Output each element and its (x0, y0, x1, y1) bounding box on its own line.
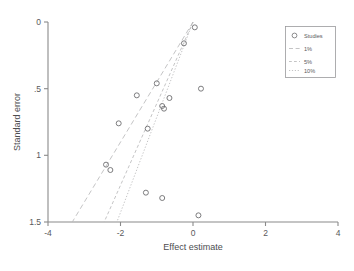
legend-label-10pct: 10% (304, 68, 315, 74)
legend-label-1pct: 1% (304, 46, 312, 52)
y-axis-title: Standard error (12, 93, 22, 151)
y-tick-label-0: 0 (36, 17, 41, 27)
x-tick-label-neg4: -4 (44, 228, 52, 238)
legend-label-5pct: 5% (304, 59, 312, 65)
y-tick-label-05: .5 (34, 84, 41, 94)
legend-label-studies: Studies (304, 33, 323, 39)
funnel-plot-svg: 0 .5 1 1.5 -4 -2 0 2 4 Effect estimate S… (0, 0, 354, 271)
x-tick-label-0: 0 (191, 228, 196, 238)
funnel-plot-figure: 0 .5 1 1.5 -4 -2 0 2 4 Effect estimate S… (0, 0, 354, 271)
x-tick-label-neg2: -2 (117, 228, 125, 238)
x-axis-title: Effect estimate (163, 242, 222, 252)
x-tick-label-4: 4 (336, 228, 341, 238)
y-tick-label-1: 1 (36, 150, 41, 160)
legend: Studies 1% 5% 10% (286, 27, 336, 78)
x-tick-label-2: 2 (263, 228, 268, 238)
y-tick-label-15: 1.5 (29, 217, 41, 227)
